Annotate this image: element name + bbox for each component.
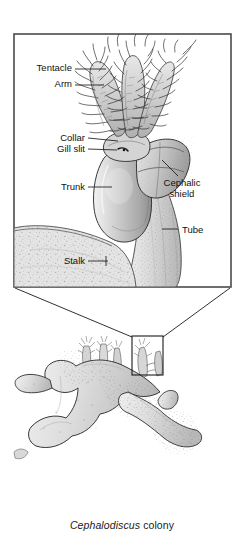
label-arm-text: Arm xyxy=(55,78,72,89)
label-tube-text: Tube xyxy=(182,224,203,235)
cephalodiscus-figure xyxy=(0,0,244,551)
figure-caption: Cephalodiscus colony xyxy=(0,519,244,531)
label-cephalic-shield-line1: Cephalic xyxy=(164,177,201,188)
caption-genus: Cephalodiscus xyxy=(70,519,140,531)
label-stalk: Stalk xyxy=(64,256,85,267)
caption-rest: colony xyxy=(140,519,174,531)
label-tentacle: Tentacle xyxy=(37,63,72,74)
label-stalk-text: Stalk xyxy=(64,255,85,266)
label-arm: Arm xyxy=(55,79,72,90)
label-tentacle-text: Tentacle xyxy=(37,62,72,73)
label-collar: Collar xyxy=(60,133,85,144)
label-gill-slit: Gill slit xyxy=(57,144,85,155)
label-cephalic-shield: Cephalic shield xyxy=(164,177,201,199)
label-collar-text: Collar xyxy=(60,132,85,143)
label-tube: Tube xyxy=(182,225,203,236)
label-cephalic-shield-line2: shield xyxy=(170,188,195,199)
label-trunk-text: Trunk xyxy=(61,181,85,192)
label-gill-slit-text: Gill slit xyxy=(57,143,85,154)
label-trunk: Trunk xyxy=(61,182,85,193)
